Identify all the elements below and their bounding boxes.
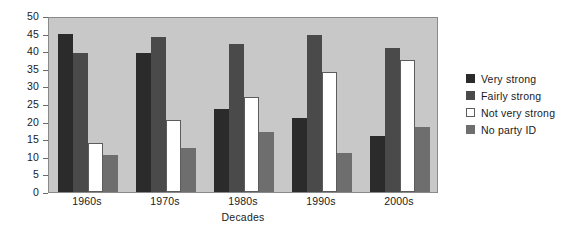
- x-tick-label: 2000s: [360, 195, 438, 207]
- bar: [166, 120, 181, 192]
- legend-swatch-icon: [466, 74, 475, 83]
- x-tick-label: 1990s: [282, 195, 360, 207]
- bar: [322, 72, 337, 192]
- bar: [259, 132, 274, 192]
- y-tick-label: 25: [27, 98, 39, 110]
- legend-label: Not very strong: [481, 107, 555, 119]
- y-tick-label: 45: [27, 28, 39, 40]
- bar: [385, 48, 400, 192]
- legend-swatch-icon: [466, 108, 475, 117]
- x-axis: 1960s1970s1980s1990s2000s: [48, 195, 438, 211]
- x-tick-label: 1970s: [126, 195, 204, 207]
- legend-item[interactable]: Very strong: [466, 71, 578, 86]
- bar: [244, 97, 259, 192]
- legend-swatch-icon: [466, 125, 475, 134]
- plot-area: [49, 18, 437, 192]
- bar: [370, 136, 385, 192]
- x-tick-label: 1980s: [204, 195, 282, 207]
- bar: [103, 155, 118, 192]
- y-tick-label: 0: [33, 186, 39, 198]
- bar: [88, 143, 103, 192]
- bar: [58, 34, 73, 192]
- bar: [73, 53, 88, 192]
- bar: [337, 153, 352, 192]
- legend-item[interactable]: Not very strong: [466, 105, 578, 120]
- bar: [229, 44, 244, 192]
- bar-group: [205, 18, 283, 192]
- legend-item[interactable]: No party ID: [466, 122, 578, 137]
- bar-group: [127, 18, 205, 192]
- y-tick-label: 15: [27, 133, 39, 145]
- plot-frame: [48, 17, 438, 193]
- bar: [292, 118, 307, 192]
- legend-label: Very strong: [481, 73, 536, 85]
- bar: [214, 109, 229, 192]
- y-tick-label: 50: [27, 10, 39, 22]
- chart-legend: Very strongFairly strongNot very strongN…: [466, 71, 578, 139]
- x-axis-title: Decades: [48, 211, 438, 223]
- x-tick-label: 1960s: [48, 195, 126, 207]
- legend-item[interactable]: Fairly strong: [466, 88, 578, 103]
- y-tick-label: 35: [27, 63, 39, 75]
- y-tick-label: 20: [27, 116, 39, 128]
- bar: [136, 53, 151, 192]
- bar-chart-figure: 05101520253035404550 1960s1970s1980s1990…: [0, 0, 581, 238]
- legend-label: No party ID: [481, 124, 536, 136]
- y-tick-mark: [43, 193, 48, 194]
- y-tick-label: 30: [27, 80, 39, 92]
- bar: [400, 60, 415, 192]
- y-tick-label: 5: [33, 168, 39, 180]
- bar: [181, 148, 196, 192]
- y-tick-label: 10: [27, 151, 39, 163]
- bar: [151, 37, 166, 192]
- bar: [415, 127, 430, 192]
- bar: [307, 35, 322, 192]
- bar-group: [283, 18, 361, 192]
- bar-group: [49, 18, 127, 192]
- legend-label: Fairly strong: [481, 90, 541, 102]
- y-axis: 05101520253035404550: [0, 17, 48, 193]
- y-tick-label: 40: [27, 45, 39, 57]
- legend-swatch-icon: [466, 91, 475, 100]
- bar-group: [361, 18, 439, 192]
